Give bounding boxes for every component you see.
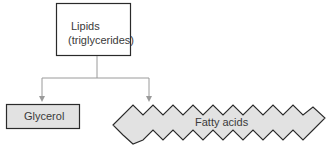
lipids-label-line1: Lipids <box>71 20 100 33</box>
arrowhead-fatty-acids-icon <box>146 96 152 102</box>
fatty-acids-label: Fatty acids <box>195 116 248 129</box>
connector-lines <box>42 56 149 98</box>
diagram-canvas <box>0 0 328 149</box>
arrowhead-glycerol-icon <box>39 96 45 102</box>
glycerol-label: Glycerol <box>24 110 64 123</box>
lipids-label-line2: (triglycerides) <box>68 34 134 47</box>
